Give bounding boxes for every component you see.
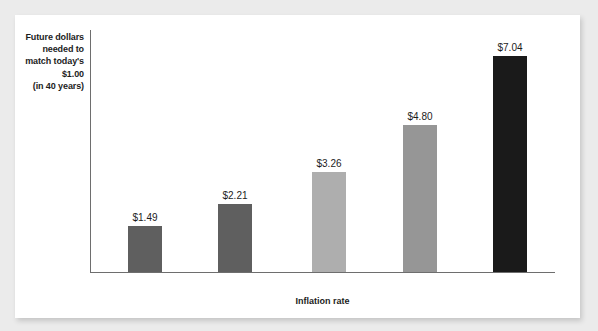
bar-chart-plot-area: Future dollars needed to match today's $… — [15, 15, 580, 318]
bar-rect[interactable] — [128, 226, 162, 272]
y-axis-title: Future dollars needed to match today's $… — [15, 31, 84, 92]
bar-value-label: $4.80 — [388, 111, 452, 122]
bar-rect[interactable] — [312, 172, 346, 272]
x-axis-line — [90, 272, 555, 273]
bar-rect[interactable] — [403, 125, 437, 272]
x-axis-title: Inflation rate — [90, 296, 555, 306]
y-axis-title-line-2: needed to — [15, 43, 84, 55]
y-axis-title-line-5: (in 40 years) — [15, 80, 84, 92]
y-axis-title-line-3: match today's — [15, 55, 84, 67]
chart-card: Future dollars needed to match today's $… — [15, 15, 580, 318]
y-axis-line — [90, 30, 91, 272]
bar-value-label: $1.49 — [113, 212, 177, 223]
bar-value-label: $2.21 — [203, 190, 267, 201]
y-axis-title-line-1: Future dollars — [15, 31, 84, 43]
bar-rect[interactable] — [218, 204, 252, 272]
y-axis-title-line-4: $1.00 — [15, 68, 84, 80]
bar-value-label: $7.04 — [478, 42, 542, 53]
bar-value-label: $3.26 — [297, 158, 361, 169]
bar-rect[interactable] — [493, 56, 527, 272]
